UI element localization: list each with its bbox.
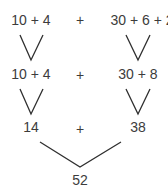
row2-plus-operator: + bbox=[76, 67, 84, 83]
row1-left-v-connector bbox=[20, 35, 43, 60]
row1-right-v-connector bbox=[126, 35, 150, 60]
row1-right-expression: 30 + 6 + 2 bbox=[110, 12, 168, 28]
connector-lines bbox=[0, 0, 168, 193]
row1-plus-operator: + bbox=[76, 12, 84, 28]
final-result: 52 bbox=[72, 172, 88, 188]
row3-right-sum: 38 bbox=[130, 119, 146, 135]
row1-left-expression: 10 + 4 bbox=[11, 12, 50, 28]
row2-left-expression: 10 + 4 bbox=[11, 66, 50, 82]
row3-left-sum: 14 bbox=[23, 119, 39, 135]
row3-plus-operator: + bbox=[76, 121, 84, 137]
final-merge-connector bbox=[40, 142, 121, 167]
row2-right-expression: 30 + 8 bbox=[118, 66, 157, 82]
row2-left-v-connector bbox=[20, 89, 43, 114]
row2-right-v-connector bbox=[126, 89, 150, 114]
